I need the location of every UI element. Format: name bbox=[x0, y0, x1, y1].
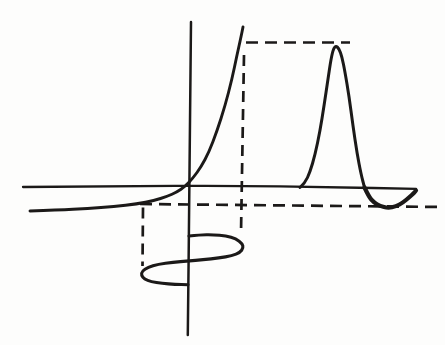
axes-group bbox=[23, 22, 416, 335]
output-pulse-curve bbox=[300, 47, 365, 188]
nonlinear-transfer-figure bbox=[0, 0, 445, 345]
exponential-transfer-curve bbox=[30, 27, 243, 211]
curves-group bbox=[30, 27, 416, 285]
input-sine-curve bbox=[142, 235, 243, 285]
input-min-guide bbox=[143, 208, 144, 267]
guide-lines-group bbox=[140, 43, 442, 267]
output-undershoot-curve bbox=[365, 188, 417, 208]
x-axis bbox=[23, 186, 416, 189]
figure-stage bbox=[0, 0, 445, 345]
